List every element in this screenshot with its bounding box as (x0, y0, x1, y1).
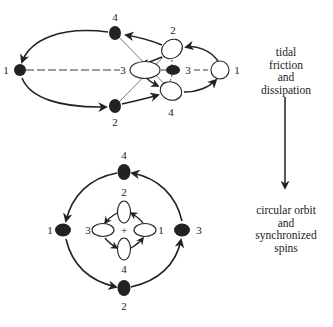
process-start-line-2: friction (250, 59, 322, 72)
label-bottom-black: 2 (121, 300, 127, 312)
white-body-position-1 (134, 224, 156, 237)
white-body-position-1 (211, 61, 229, 79)
outer-arrow-top-left (66, 173, 117, 221)
label-upper-white: 2 (170, 24, 176, 36)
black-body-position-2 (118, 280, 131, 296)
process-start-line-4: dissipation (250, 84, 322, 97)
spin-arrow-lower-right (184, 80, 216, 92)
white-body-position-3 (92, 224, 114, 237)
orbit-arrow-lower-mid (122, 95, 158, 104)
label-left-black: 1 (47, 224, 53, 236)
outer-arrow-bottom-left (66, 239, 116, 287)
label-right-white: 1 (234, 64, 240, 76)
process-start-text: tidal friction and dissipation (250, 46, 322, 96)
outer-arrow-bottom-right (131, 240, 181, 287)
label-inner-bottom-white: 4 (121, 263, 127, 275)
white-body-position-3 (130, 62, 160, 79)
process-start-line-3: and (250, 71, 322, 84)
outer-arrow-top-right (132, 173, 182, 221)
black-body-position-4 (118, 164, 131, 180)
label-center-of-mass: + (121, 224, 127, 236)
label-lower-white: 4 (168, 106, 174, 118)
orbit-arrow-upper-mid (126, 35, 162, 45)
label-inner-top-white: 2 (121, 186, 127, 198)
black-body-position-1 (55, 224, 71, 237)
black-body-position-2 (109, 99, 121, 113)
spin-arrow-upper-right (186, 47, 218, 61)
white-body-position-2 (118, 201, 131, 223)
eccentric-orbit-diagram: 1 4 2 3 3 2 4 1 (3, 11, 240, 128)
circular-orbit-diagram: 4 2 1 3 + 1 3 4 2 (47, 149, 202, 312)
process-start-line-1: tidal (250, 46, 322, 59)
process-end-line-1: circular orbit (244, 204, 328, 217)
label-lower-black: 2 (112, 116, 118, 128)
orbit-arrow-upper-left (22, 31, 108, 62)
inner-arrow-bottom-left (105, 238, 117, 248)
inner-arrow-top-left (105, 213, 117, 223)
inner-arrow-top-right (131, 213, 143, 223)
label-left-black: 1 (3, 64, 9, 76)
label-upper-black: 4 (112, 11, 118, 23)
label-inner-left-white: 3 (85, 224, 91, 236)
orbit-arrow-lower-left (22, 78, 106, 107)
process-end-line-3: synchronized (244, 229, 328, 242)
process-end-text: circular orbit and synchronized spins (244, 204, 328, 254)
process-end-line-4: spins (244, 242, 328, 255)
label-top-black: 4 (121, 149, 127, 161)
black-body-position-1 (14, 64, 26, 76)
process-end-line-2: and (244, 217, 328, 230)
white-body-position-4 (118, 238, 131, 260)
black-body-position-4 (109, 26, 121, 40)
white-body-position-4 (158, 79, 185, 103)
label-inner-right-white: 1 (158, 224, 164, 236)
label-right-black: 3 (196, 224, 202, 236)
black-body-position-3 (174, 224, 190, 237)
inner-arrow-bottom-right (131, 238, 143, 248)
black-body-position-3 (166, 65, 180, 75)
label-small-black: 3 (185, 64, 191, 76)
label-center-white: 3 (120, 64, 126, 76)
